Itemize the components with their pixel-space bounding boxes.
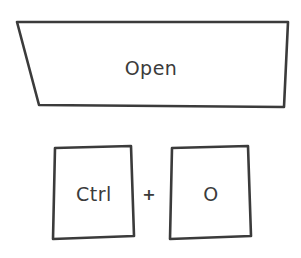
open-action-label: Open <box>125 59 178 78</box>
plus-separator: + <box>142 187 155 203</box>
o-key-label: O <box>203 185 218 204</box>
diagram-shapes <box>0 0 301 258</box>
ctrl-key-label: Ctrl <box>76 185 112 204</box>
